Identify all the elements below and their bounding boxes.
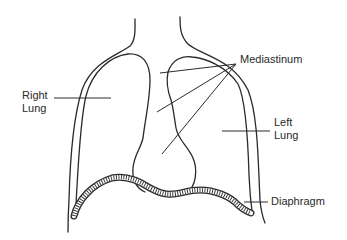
left-lung-label: Left Lung	[274, 116, 298, 142]
diaphragm-label: Diaphragm	[271, 195, 325, 208]
mediastinum-label: Mediastinum	[240, 53, 302, 66]
right-lung-label: Right Lung	[22, 89, 48, 115]
diaphragm	[74, 177, 251, 216]
